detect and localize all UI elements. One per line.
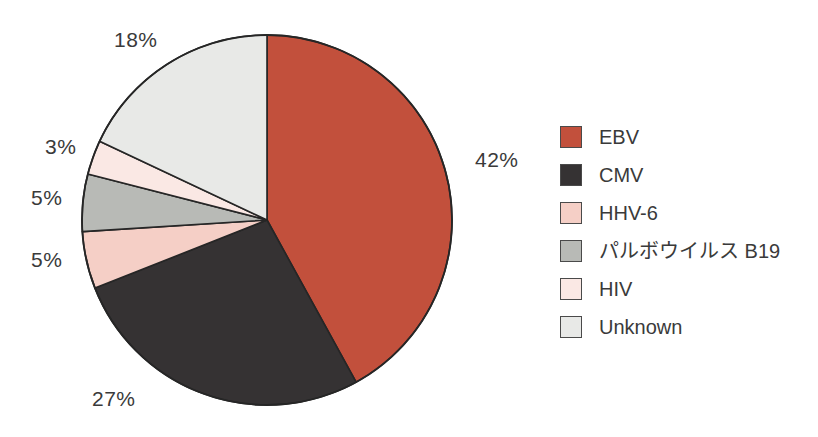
- pie-value-label-ebv: 42%: [475, 148, 519, 172]
- legend-item-label: HIV: [599, 279, 632, 299]
- legend-swatch-icon: [560, 164, 582, 186]
- pie-value-label-hhv6: 5%: [31, 248, 62, 272]
- pie-value-label-cmv: 27%: [92, 387, 136, 411]
- legend-item-label: CMV: [599, 165, 643, 185]
- legend-swatch-icon: [560, 202, 582, 224]
- legend-item-3[interactable]: HHV-6: [560, 194, 810, 232]
- legend-swatch-icon: [560, 278, 582, 300]
- legend-swatch-icon: [560, 126, 582, 148]
- legend-item-1[interactable]: EBV: [560, 118, 810, 156]
- legend-item-2[interactable]: CMV: [560, 156, 810, 194]
- pie-chart-figure: 42%27%5%5%3%18% EBVCMVHHV-6パルボウイルス B19HI…: [0, 0, 818, 437]
- legend-item-label: パルボウイルス B19: [599, 241, 780, 261]
- legend-swatch-icon: [560, 316, 582, 338]
- legend-item-4[interactable]: パルボウイルス B19: [560, 232, 810, 270]
- legend-item-label: HHV-6: [599, 203, 658, 223]
- pie-chart-plot-area: 42%27%5%5%3%18%: [0, 0, 520, 437]
- legend-item-6[interactable]: Unknown: [560, 308, 810, 346]
- pie-chart-svg: [0, 0, 520, 437]
- legend-item-label: Unknown: [599, 317, 682, 337]
- pie-value-label-parvo: 5%: [31, 186, 62, 210]
- legend-item-label: EBV: [599, 127, 639, 147]
- legend-swatch-icon: [560, 240, 582, 262]
- chart-legend: EBVCMVHHV-6パルボウイルス B19HIVUnknown: [560, 118, 810, 346]
- pie-value-label-hiv: 3%: [45, 135, 76, 159]
- legend-item-5[interactable]: HIV: [560, 270, 810, 308]
- pie-value-label-unknown: 18%: [114, 28, 158, 52]
